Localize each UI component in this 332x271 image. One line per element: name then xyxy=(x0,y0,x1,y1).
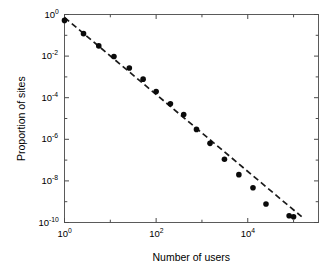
y-tick-label-3: 10-6 xyxy=(42,134,59,144)
axis-ticks xyxy=(65,15,319,223)
data-point xyxy=(81,31,87,37)
plot-frame xyxy=(65,15,319,223)
data-point xyxy=(140,76,146,82)
data-point xyxy=(153,89,159,95)
y-axis-title: Proportion of sites xyxy=(16,76,27,161)
data-point xyxy=(263,201,269,207)
y-tick-label-2: 10-4 xyxy=(42,93,59,103)
data-point xyxy=(222,156,228,162)
data-point xyxy=(111,54,117,60)
data-point xyxy=(250,185,256,191)
x-tick-label-0: 100 xyxy=(58,229,72,239)
x-tick-label-1: 102 xyxy=(149,229,163,239)
y-tick-label-4: 10-8 xyxy=(42,176,59,186)
data-point xyxy=(127,65,133,71)
x-tick-label-2: 104 xyxy=(241,229,255,239)
data-point xyxy=(62,18,68,24)
data-point xyxy=(194,127,200,133)
y-tick-label-1: 10-2 xyxy=(42,51,59,61)
data-point xyxy=(207,141,213,147)
chart-figure: 100 102 104 100 10-2 10-4 10-6 10-8 10-1… xyxy=(0,0,332,271)
data-point xyxy=(168,101,174,107)
data-point xyxy=(236,172,242,178)
data-point xyxy=(96,43,102,49)
data-point xyxy=(181,112,187,118)
data-point xyxy=(291,214,297,220)
y-tick-label-5: 10-10 xyxy=(39,218,59,228)
x-axis-title: Number of users xyxy=(153,252,231,263)
data-points xyxy=(62,18,297,220)
y-tick-label-0: 100 xyxy=(45,10,59,20)
